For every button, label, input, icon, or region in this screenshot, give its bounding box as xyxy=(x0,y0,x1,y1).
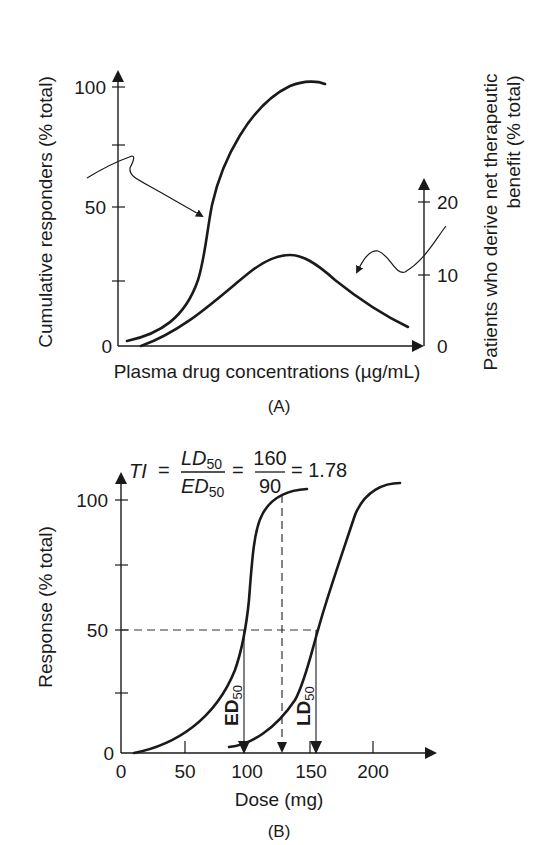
reference-arrow-icon xyxy=(277,742,287,753)
panel-b-x-tick-0: 0 xyxy=(116,761,127,782)
panel-a-left-y-label: Cumulative responders (% total) xyxy=(35,76,56,347)
panel-b-x-tick-150: 150 xyxy=(295,761,327,782)
panel-b-x-axis-arrow-icon xyxy=(425,747,437,759)
panel-b: TI = LD50 ED50 = 160 90 = 1.78 100 50 0 xyxy=(35,447,437,841)
panel-a-x-axis-arrow-icon xyxy=(412,340,424,352)
panel-a: 100 50 0 20 10 0 Cumulative responders (… xyxy=(35,70,524,416)
formula-eq1: = xyxy=(158,459,170,481)
panel-b-x-tick-200: 200 xyxy=(357,761,389,782)
formula-den-value: 90 xyxy=(259,475,281,497)
panel-b-x-tick-100: 100 xyxy=(231,761,263,782)
ld50-arrow-icon xyxy=(310,741,322,754)
panel-a-caption: (A) xyxy=(268,397,291,416)
formula-denominator: ED50 xyxy=(181,475,225,500)
panel-a-right-axis-arrow-icon xyxy=(418,178,430,190)
formula-ti: TI xyxy=(129,460,147,482)
panel-b-y-tick-0: 0 xyxy=(103,743,114,764)
panel-a-right-y-label-line2: benefit (% total) xyxy=(503,75,524,208)
panel-a-left-tick-100: 100 xyxy=(74,77,106,98)
formula-result: = 1.78 xyxy=(291,459,347,481)
panel-b-y-tick-100: 100 xyxy=(76,490,108,511)
panel-a-right-tick-20: 20 xyxy=(437,192,458,213)
figure: 100 50 0 20 10 0 Cumulative responders (… xyxy=(0,0,541,845)
panel-b-x-label: Dose (mg) xyxy=(235,789,324,810)
ld50-label: LD50 xyxy=(293,686,317,726)
panel-a-right-tick-10: 10 xyxy=(437,265,458,286)
panel-b-y-label: Response (% total) xyxy=(35,526,56,688)
panel-a-right-pointer-arrow xyxy=(357,226,446,272)
panel-a-right-tick-0: 0 xyxy=(437,336,448,357)
panel-a-right-y-label-line1: Patients who derive net therapeutic xyxy=(480,74,501,371)
panel-b-x-tick-50: 50 xyxy=(174,761,195,782)
panel-a-x-label: Plasma drug concentrations (µg/mL) xyxy=(114,361,421,382)
panel-a-benefit-curve xyxy=(141,255,408,346)
formula-eq2: = xyxy=(232,459,244,481)
panel-b-y-axis-arrow-icon xyxy=(115,472,127,484)
panel-a-left-tick-0: 0 xyxy=(101,336,112,357)
panel-b-caption: (B) xyxy=(268,822,291,841)
therapeutic-index-formula: TI = LD50 ED50 = 160 90 = 1.78 xyxy=(129,447,347,500)
formula-num-value: 160 xyxy=(253,447,286,469)
ld-curve xyxy=(229,483,400,747)
panel-a-cumulative-curve xyxy=(127,82,325,341)
panel-b-y-tick-50: 50 xyxy=(87,620,108,641)
panel-a-left-axis-arrow-icon xyxy=(112,70,124,82)
formula-numerator: LD50 xyxy=(181,447,222,472)
panel-a-left-tick-50: 50 xyxy=(85,197,106,218)
